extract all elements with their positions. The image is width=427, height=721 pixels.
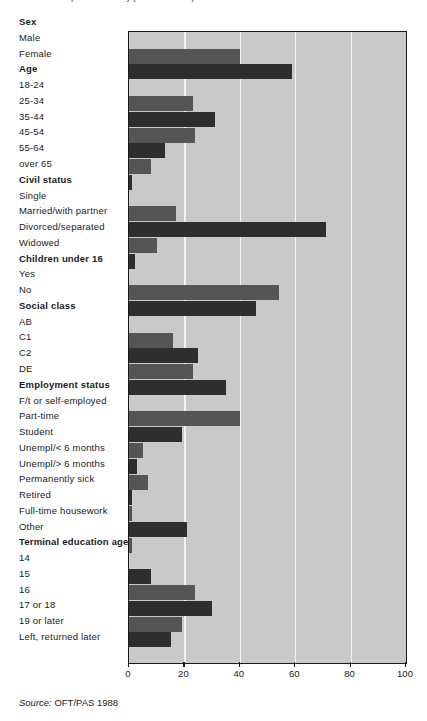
bar <box>129 380 226 395</box>
category-row-label: 14 <box>0 550 128 566</box>
label-text: Divorced/separated <box>0 222 105 232</box>
bar <box>129 475 148 490</box>
category-row-label: 55-64 <box>0 140 128 156</box>
axis-tick-label-0: 0 <box>125 668 130 679</box>
bar <box>129 112 215 127</box>
category-row-label: C2 <box>0 345 128 361</box>
source-note: Source: OFT/PAS 1988 <box>19 697 118 708</box>
label-text: 55-64 <box>0 143 44 153</box>
label-text: Other <box>0 522 44 532</box>
label-text: Civil status <box>0 175 72 185</box>
label-text: 25-34 <box>0 96 44 106</box>
category-row-label: Female <box>0 46 128 62</box>
bar <box>129 159 151 174</box>
bar <box>129 522 187 537</box>
category-row-label: 18-24 <box>0 77 128 93</box>
category-row-label: 17 or 18 <box>0 597 128 613</box>
bar <box>129 222 326 237</box>
bar <box>129 301 256 316</box>
chart-title-text: as part of a survey (Base: n = 2001) <box>60 0 194 2</box>
bar <box>129 285 279 300</box>
bar <box>129 427 182 442</box>
axis-tick-label-40: 40 <box>234 668 245 679</box>
category-row-label: 19 or later <box>0 613 128 629</box>
category-row-label: Left, returned later <box>0 629 128 645</box>
category-row-label: 45-54 <box>0 124 128 140</box>
axis-tick-label-80: 80 <box>344 668 355 679</box>
bar <box>129 64 292 79</box>
category-row-label: No <box>0 282 128 298</box>
label-text: Children under 16 <box>0 254 103 264</box>
x-axis: 020406080100 <box>128 662 405 688</box>
label-text: Age <box>0 64 38 74</box>
category-row-label: AB <box>0 314 128 330</box>
category-row-label: DE <box>0 361 128 377</box>
bar <box>129 128 195 143</box>
bar <box>129 585 195 600</box>
category-row-label: 15 <box>0 566 128 582</box>
category-row-label: Unempl/> 6 months <box>0 455 128 471</box>
bar <box>129 459 137 474</box>
bar <box>129 348 198 363</box>
bar <box>129 254 135 269</box>
category-group-label: Sex <box>0 14 128 30</box>
label-text: 17 or 18 <box>0 600 55 610</box>
axis-tick <box>350 662 351 667</box>
label-text: Full-time housework <box>0 506 108 516</box>
bar-chart: as part of a survey (Base: n = 2001) Sex… <box>0 0 427 721</box>
bar <box>129 411 240 426</box>
category-row-label: Retired <box>0 487 128 503</box>
label-text: Social class <box>0 301 76 311</box>
category-row-label: Married/with partner <box>0 203 128 219</box>
category-row-label: Student <box>0 424 128 440</box>
bar <box>129 601 212 616</box>
category-row-label: over 65 <box>0 156 128 172</box>
bar <box>129 49 240 64</box>
category-row-label: 25-34 <box>0 93 128 109</box>
label-text: Female <box>0 49 52 59</box>
label-text: No <box>0 285 32 295</box>
bar <box>129 364 193 379</box>
category-row-label: Divorced/separated <box>0 219 128 235</box>
axis-tick-label-20: 20 <box>178 668 189 679</box>
category-row-label: Male <box>0 30 128 46</box>
bar <box>129 333 173 348</box>
label-text: Unempl/< 6 months <box>0 443 105 453</box>
bar <box>129 175 132 190</box>
plot-area <box>128 31 407 664</box>
label-text: C2 <box>0 348 32 358</box>
label-text: 18-24 <box>0 80 44 90</box>
axis-tick <box>183 662 184 667</box>
label-text: C1 <box>0 332 32 342</box>
bar <box>129 632 171 647</box>
label-text: Part-time <box>0 411 59 421</box>
category-group-label: Age <box>0 61 128 77</box>
bar <box>129 490 132 505</box>
label-text: 16 <box>0 585 30 595</box>
axis-tick <box>128 662 129 667</box>
axis-tick <box>405 662 406 667</box>
source-value: OFT/PAS 1988 <box>54 697 118 708</box>
bar <box>129 238 157 253</box>
label-text: Widowed <box>0 238 59 248</box>
axis-tick <box>239 662 240 667</box>
label-text: Married/with partner <box>0 206 107 216</box>
category-row-label: Unempl/< 6 months <box>0 440 128 456</box>
axis-tick <box>294 662 295 667</box>
bar <box>129 96 193 111</box>
label-text: F/t or self-employed <box>0 396 107 406</box>
category-group-label: Employment status <box>0 377 128 393</box>
bar-series <box>129 32 406 663</box>
category-row-label: Other <box>0 519 128 535</box>
bar <box>129 443 143 458</box>
bar <box>129 617 182 632</box>
category-label-column: SexMaleFemaleAge18-2425-3435-4445-5455-6… <box>0 14 128 645</box>
label-text: 19 or later <box>0 616 64 626</box>
label-text: Retired <box>0 490 51 500</box>
label-text: AB <box>0 317 32 327</box>
bar <box>129 143 165 158</box>
category-row-label: Permanently sick <box>0 471 128 487</box>
category-group-label: Terminal education age <box>0 534 128 550</box>
bar <box>129 569 151 584</box>
label-text: Unempl/> 6 months <box>0 459 105 469</box>
